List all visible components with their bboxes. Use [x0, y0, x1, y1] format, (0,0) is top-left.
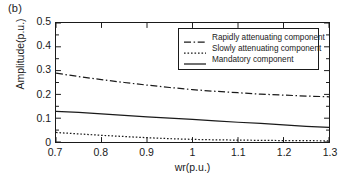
x-tick-label: 1.1	[231, 146, 246, 158]
x-tick-label: 1	[190, 146, 196, 158]
x-tick-label: 1.3	[323, 146, 338, 158]
legend-item: Mandatory component	[183, 55, 314, 65]
y-tick-label: 0.5	[36, 15, 51, 27]
series-line-2	[56, 132, 329, 140]
series-line-3	[56, 111, 329, 127]
legend-box: Rapidly attenuating componentSlowly atte…	[178, 28, 319, 70]
x-axis-tick-labels: 0.70.80.911.11.21.3	[0, 146, 343, 162]
legend-item: Rapidly attenuating component	[183, 33, 314, 43]
x-tick-label: 0.8	[94, 146, 109, 158]
legend-line-sample-dotted	[183, 44, 207, 54]
y-tick-label: 0.2	[36, 88, 51, 100]
series-line-1	[56, 73, 329, 97]
legend-line-sample-dashdot	[183, 33, 207, 43]
figure-panel-b: (b) Amplitude(p.u.) 00.10.20.30.40.5 0.7…	[0, 0, 343, 184]
x-tick-label: 0.7	[48, 146, 63, 158]
legend-item-label: Slowly attenuating component	[212, 44, 321, 54]
legend-item-label: Rapidly attenuating component	[212, 33, 325, 43]
legend-item-label: Mandatory component	[212, 55, 293, 65]
y-tick-label: 0.4	[36, 39, 51, 51]
y-tick-label: 0.1	[36, 112, 51, 124]
legend-item: Slowly attenuating component	[183, 44, 314, 54]
legend-line-sample-solid	[183, 55, 207, 65]
x-tick-label: 1.2	[277, 146, 292, 158]
y-tick-label: 0.3	[36, 63, 51, 75]
x-axis-label: wr(p.u.)	[55, 161, 330, 173]
x-tick-label: 0.9	[139, 146, 154, 158]
